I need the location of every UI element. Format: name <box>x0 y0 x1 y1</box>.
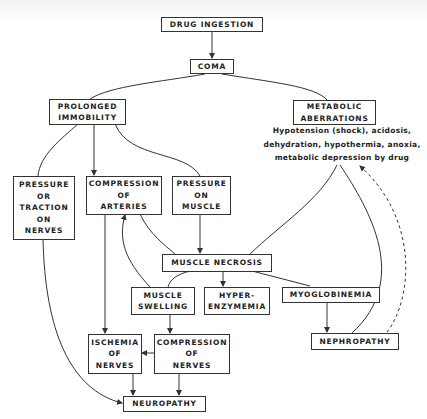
node-label: METABOLIC <box>307 101 362 113</box>
node-label: ABERRATIONS <box>300 113 368 125</box>
node-label: IMMOBILITY <box>58 112 117 124</box>
node-drug-ingestion: DRUG INGESTION <box>161 17 263 32</box>
node-label: ARTERIES <box>101 201 148 213</box>
node-myoglobinemia: MYOGLOBINEMIA <box>282 287 380 303</box>
node-label: PRESSURE <box>176 178 226 190</box>
node-nephropathy: NEPHROPATHY <box>311 333 399 350</box>
edge-metabolic-nephropathy <box>340 165 382 333</box>
node-ischemia-nerves: ISCHEMIA OF NERVES <box>88 334 142 374</box>
node-pressure-muscle: PRESSURE ON MUSCLE <box>172 176 231 215</box>
node-metabolic-aberrations: METABOLIC ABERRATIONS <box>293 100 376 125</box>
node-neuropathy: NEUROPATHY <box>123 396 206 412</box>
node-label: OF <box>185 348 198 360</box>
edge-nephropathy-metabolic-dashed <box>360 166 406 332</box>
node-label: SWELLING <box>138 301 188 313</box>
metabolic-causes-note: Hypotension (shock), acidosis, dehydrati… <box>257 124 427 165</box>
node-label: PRESSURE <box>19 179 69 191</box>
node-label: NEUROPATHY <box>132 398 197 410</box>
node-label: COMPRESSION <box>157 337 227 349</box>
edge-prolonged-traction <box>38 124 78 176</box>
node-label: ON <box>37 214 51 226</box>
node-label: OR <box>37 191 51 203</box>
node-label: OF <box>117 190 130 202</box>
edge-metabolic-necrosis <box>250 165 337 254</box>
node-label: NERVES <box>25 225 63 237</box>
note-line: Hypotension (shock), acidosis, <box>257 124 427 138</box>
node-pressure-traction-nerves: PRESSURE OR TRACTION ON NERVES <box>13 176 75 240</box>
node-label: PROLONGED <box>58 101 118 113</box>
node-compression-nerves: COMPRESSION OF NERVES <box>154 334 230 374</box>
node-label: NERVES <box>173 360 211 372</box>
node-label: ISCHEMIA <box>91 337 139 349</box>
edge-necrosis-myoglobin <box>252 271 310 286</box>
node-label: NEPHROPATHY <box>320 336 391 348</box>
edge-prolonged-muscle <box>115 124 200 176</box>
node-label: MYOGLOBINEMIA <box>290 289 372 301</box>
node-label: ENZYMEMIA <box>208 301 266 313</box>
node-label: OF <box>108 348 121 360</box>
edge-arteries-necrosis <box>140 214 175 254</box>
node-label: DRUG INGESTION <box>170 19 254 31</box>
note-line: dehydration, hypothermia, anoxia, <box>257 138 427 152</box>
node-label: HYPER- <box>219 290 255 302</box>
node-label: TRACTION <box>19 202 68 214</box>
node-label: COMPRESSION <box>89 178 159 190</box>
node-hyperenzymemia: HYPER- ENZYMEMIA <box>204 287 270 315</box>
node-label: NERVES <box>96 360 134 372</box>
edge-traction-neuropathy <box>43 239 122 403</box>
node-label: MUSCLE NECROSIS <box>171 257 263 269</box>
node-muscle-necrosis: MUSCLE NECROSIS <box>162 254 272 272</box>
node-coma: COMA <box>190 59 234 74</box>
edge-coma-prolonged <box>90 74 205 99</box>
node-compression-arteries: COMPRESSION OF ARTERIES <box>86 176 162 215</box>
flowchart-canvas: DRUG INGESTION COMA PROLONGED IMMOBILITY… <box>0 0 427 419</box>
note-line: metabolic depression by drug <box>257 151 427 165</box>
edge-swelling-arteries <box>122 215 150 287</box>
node-prolonged-immobility: PROLONGED IMMOBILITY <box>49 99 126 125</box>
edge-necrosis-swelling <box>168 271 190 287</box>
node-label: MUSCLE <box>182 201 221 213</box>
node-label: ON <box>194 190 208 202</box>
node-muscle-swelling: MUSCLE SWELLING <box>131 287 195 315</box>
node-label: MUSCLE <box>143 290 182 302</box>
edge-coma-metabolic <box>222 74 327 100</box>
node-label: COMA <box>198 61 226 73</box>
